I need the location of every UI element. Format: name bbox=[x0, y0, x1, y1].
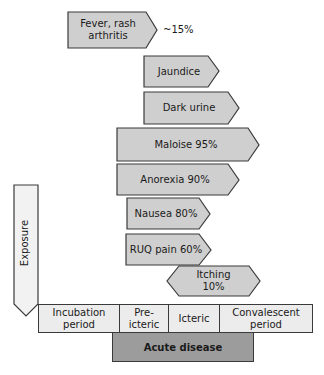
exposure-label: Exposure bbox=[19, 211, 33, 275]
convalescent-line2: period bbox=[250, 319, 282, 331]
itching-label: Itching 10% bbox=[167, 266, 260, 296]
incubation-line1: Incubation bbox=[53, 307, 106, 319]
nausea-label: Nausea 80% bbox=[127, 198, 205, 229]
timeline-icteric: Icteric bbox=[168, 304, 220, 333]
dark-urine-label: Dark urine bbox=[144, 92, 234, 124]
ruq-pain-label: RUQ pain 60% bbox=[126, 234, 206, 265]
timeline-incubation: Incubation period bbox=[38, 304, 120, 333]
anorexia-label: Anorexia 90% bbox=[117, 164, 233, 195]
itching-label-line2: 10% bbox=[202, 281, 224, 293]
fever-label-line2: arthritis bbox=[88, 30, 127, 42]
acute-disease-label: Acute disease bbox=[144, 342, 223, 353]
malaise-label: Maloise 95% bbox=[117, 128, 255, 161]
pre-icteric-label: Pre-icteric bbox=[120, 307, 168, 331]
fever-annotation: ~15% bbox=[163, 24, 194, 36]
incubation-line2: period bbox=[63, 319, 95, 331]
fever-label-line1: Fever, rash bbox=[80, 18, 136, 30]
itching-label-line1: Itching bbox=[196, 269, 230, 281]
icteric-label: Icteric bbox=[179, 313, 210, 325]
acute-disease-bar: Acute disease bbox=[112, 332, 254, 362]
timeline-pre-icteric: Pre-icteric bbox=[119, 304, 169, 333]
fever-label: Fever, rash arthritis bbox=[68, 12, 148, 48]
jaundice-label: Jaundice bbox=[144, 56, 214, 87]
convalescent-line1: Convalescent bbox=[232, 307, 300, 319]
timeline-convalescent: Convalescent period bbox=[219, 304, 313, 333]
